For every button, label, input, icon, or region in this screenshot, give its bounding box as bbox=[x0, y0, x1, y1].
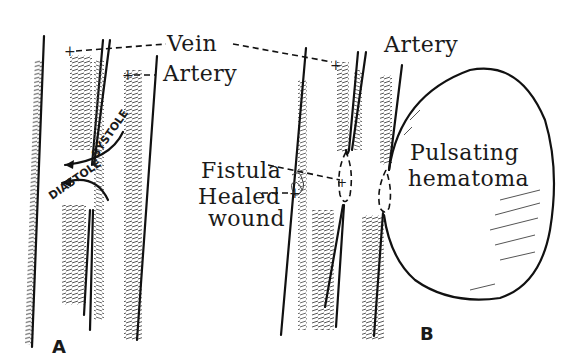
artery-label-a: Artery bbox=[162, 61, 237, 86]
artery-b bbox=[362, 65, 402, 340]
artery-marker-a: + bbox=[122, 67, 134, 83]
panel-label-b: B bbox=[420, 323, 434, 344]
artery-a bbox=[90, 40, 157, 340]
diagram-canvas: SYSTOLE DIASTOLE + Vein + + Artery A bbox=[0, 0, 572, 364]
hematoma-label-2: hematoma bbox=[408, 166, 529, 191]
fistula-marker: + bbox=[337, 176, 348, 190]
artery-opening bbox=[379, 170, 391, 212]
fistula-label: Fistula bbox=[201, 158, 281, 183]
healed-wound-marker: + bbox=[289, 185, 301, 201]
vein-marker-a: + bbox=[64, 43, 76, 59]
panel-label-a: A bbox=[52, 336, 66, 357]
artery-label-b: Artery bbox=[383, 32, 458, 57]
hematoma-label-1: Pulsating bbox=[410, 140, 519, 165]
vein-label: Vein bbox=[166, 31, 217, 56]
panel-b: Artery Fistula + Healed wound + Pulsatin… bbox=[198, 32, 554, 344]
healed-wound-label-2: wound bbox=[208, 206, 285, 231]
